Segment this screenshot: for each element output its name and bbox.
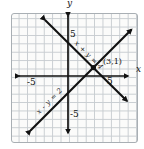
y-tick-minus-5: -5 <box>70 110 79 119</box>
x-axis-label: x <box>136 65 141 74</box>
x-tick-5: 5 <box>107 77 113 86</box>
coordinate-plane-figure: y x 5 -5 -5 5 (3,1) x + y = 4 x - y = 2 <box>0 0 144 149</box>
y-axis-label: y <box>67 0 72 8</box>
x-tick-minus-5: -5 <box>27 78 36 87</box>
y-tick-5: 5 <box>70 30 76 39</box>
intersection-point-label: (3,1) <box>103 58 122 66</box>
